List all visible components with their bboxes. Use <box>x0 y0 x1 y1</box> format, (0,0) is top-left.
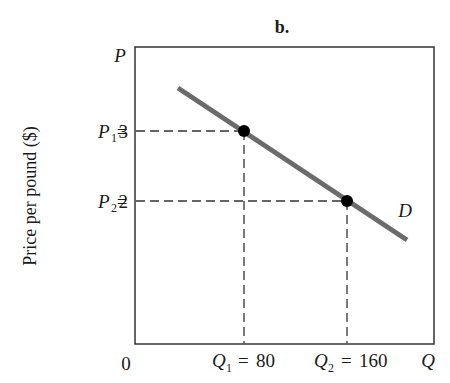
x-tick-q2-subscript: 2 <box>328 361 334 375</box>
x-tick-q2-eq: = <box>341 350 352 371</box>
y-axis-symbol: P <box>113 45 126 66</box>
x-tick-q1-subscript: 1 <box>226 361 232 375</box>
y-tick-p1-symbol: P <box>97 121 110 142</box>
chart-title: b. <box>275 17 290 37</box>
origin-label: 0 <box>121 353 131 374</box>
demand-chart: b. P Price per pound ($) D P 1 = 3 P 2 =… <box>0 0 450 383</box>
demand-curve <box>178 88 407 240</box>
point-2 <box>341 195 353 207</box>
y-tick-p1: P 1 = 3 <box>97 121 128 145</box>
x-tick-q1-value: 80 <box>256 350 275 371</box>
x-tick-q1-eq: = <box>238 350 249 371</box>
x-tick-q1: Q 1 = 80 <box>212 350 275 375</box>
x-axis-symbol: Q <box>421 350 435 371</box>
y-axis-label: Price per pound ($) <box>20 126 41 265</box>
guide-lines <box>136 131 347 343</box>
y-tick-p2-symbol: P <box>97 191 110 212</box>
x-tick-q1-symbol: Q <box>212 350 226 371</box>
x-tick-q2: Q 2 = 160 <box>314 350 388 375</box>
curve-label-d: D <box>397 200 412 221</box>
x-tick-q2-value: 160 <box>359 350 388 371</box>
y-tick-p2-value: 2 <box>119 191 129 212</box>
y-tick-p1-value: 3 <box>119 121 129 142</box>
point-1 <box>238 125 250 137</box>
x-tick-q2-symbol: Q <box>314 350 328 371</box>
y-tick-p2: P 2 = 2 <box>97 191 128 215</box>
